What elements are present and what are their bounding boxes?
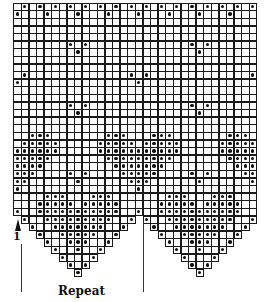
purl-dot-icon <box>206 218 209 221</box>
purl-dot-icon <box>38 233 41 236</box>
purl-dot-icon <box>206 263 209 266</box>
purl-dot-icon <box>54 218 57 221</box>
purl-dot-icon <box>76 240 79 243</box>
purl-dot-icon <box>46 12 49 15</box>
purl-dot-icon <box>198 12 201 15</box>
purl-dot-icon <box>145 180 148 183</box>
purl-dot-icon <box>190 43 193 46</box>
purl-dot-icon <box>168 195 171 198</box>
purl-dot-icon <box>183 218 186 221</box>
purl-dot-icon <box>114 202 117 205</box>
purl-dot-icon <box>168 142 171 145</box>
purl-dot-icon <box>107 202 110 205</box>
purl-dot-icon <box>114 233 117 236</box>
purl-dot-icon <box>54 149 57 152</box>
start-row-number: 1 <box>13 230 21 243</box>
purl-dot-icon <box>54 142 57 145</box>
purl-dot-icon <box>114 157 117 160</box>
purl-dot-icon <box>107 218 110 221</box>
purl-dot-icon <box>54 5 57 8</box>
purl-dot-icon <box>54 202 57 205</box>
purl-dot-icon <box>122 164 125 167</box>
purl-dot-icon <box>107 142 110 145</box>
purl-dot-icon <box>168 218 171 221</box>
purl-dot-icon <box>130 149 133 152</box>
purl-dot-icon <box>114 149 117 152</box>
purl-dot-icon <box>221 149 224 152</box>
purl-dot-icon <box>46 149 49 152</box>
purl-dot-icon <box>228 12 231 15</box>
purl-dot-icon <box>38 149 41 152</box>
purl-dot-icon <box>122 225 125 228</box>
purl-dot-icon <box>198 50 201 53</box>
purl-dot-icon <box>152 149 155 152</box>
purl-dot-icon <box>114 164 117 167</box>
purl-dot-icon <box>236 202 239 205</box>
purl-dot-icon <box>16 187 19 190</box>
purl-dot-icon <box>168 149 171 152</box>
purl-dot-icon <box>228 218 231 221</box>
purl-dot-icon <box>190 240 193 243</box>
purl-dot-icon <box>221 202 224 205</box>
purl-dot-icon <box>92 225 95 228</box>
purl-dot-icon <box>92 233 95 236</box>
purl-dot-icon <box>130 164 133 167</box>
purl-dot-icon <box>130 73 133 76</box>
purl-dot-icon <box>31 142 34 145</box>
repeat-right-line <box>143 222 144 292</box>
purl-dot-icon <box>198 111 201 114</box>
purl-dot-icon <box>16 164 19 167</box>
purl-dot-icon <box>84 202 87 205</box>
purl-dot-icon <box>221 142 224 145</box>
purl-dot-icon <box>206 104 209 107</box>
purl-dot-icon <box>198 240 201 243</box>
purl-dot-icon <box>84 240 87 243</box>
purl-dot-icon <box>38 5 41 8</box>
purl-dot-icon <box>38 164 41 167</box>
purl-dot-icon <box>114 5 117 8</box>
purl-dot-icon <box>16 12 19 15</box>
purl-dot-icon <box>76 271 79 274</box>
purl-dot-icon <box>76 233 79 236</box>
purl-dot-icon <box>190 225 193 228</box>
purl-dot-icon <box>69 225 72 228</box>
purl-dot-icon <box>76 111 79 114</box>
purl-dot-icon <box>145 73 148 76</box>
purl-dot-icon <box>84 225 87 228</box>
purl-dot-icon <box>152 157 155 160</box>
purl-dot-icon <box>69 202 72 205</box>
purl-dot-icon <box>54 225 57 228</box>
purl-dot-icon <box>190 233 193 236</box>
purl-dot-icon <box>130 180 133 183</box>
purl-dot-icon <box>228 142 231 145</box>
purl-dot-icon <box>206 5 209 8</box>
purl-dot-icon <box>206 43 209 46</box>
purl-dot-icon <box>130 157 133 160</box>
purl-dot-icon <box>92 218 95 221</box>
purl-dot-icon <box>244 142 247 145</box>
purl-dot-icon <box>190 218 193 221</box>
purl-dot-icon <box>183 202 186 205</box>
purl-dot-icon <box>76 225 79 228</box>
purl-dot-icon <box>152 142 155 145</box>
purl-dot-icon <box>16 81 19 84</box>
purl-dot-icon <box>92 202 95 205</box>
purl-dot-icon <box>76 180 79 183</box>
purl-dot-icon <box>236 149 239 152</box>
purl-dot-icon <box>16 157 19 160</box>
purl-dot-icon <box>236 164 239 167</box>
purl-dot-icon <box>152 225 155 228</box>
purl-dot-icon <box>84 263 87 266</box>
purl-dot-icon <box>168 157 171 160</box>
purl-dot-icon <box>183 256 186 259</box>
purl-dot-icon <box>228 157 231 160</box>
purl-dot-icon <box>160 149 163 152</box>
purl-dot-icon <box>31 164 34 167</box>
purl-dot-icon <box>221 225 224 228</box>
purl-dot-icon <box>69 263 72 266</box>
purl-dot-icon <box>76 218 79 221</box>
purl-dot-icon <box>221 218 224 221</box>
purl-dot-icon <box>244 164 247 167</box>
purl-dot-icon <box>190 202 193 205</box>
purl-dot-icon <box>130 5 133 8</box>
